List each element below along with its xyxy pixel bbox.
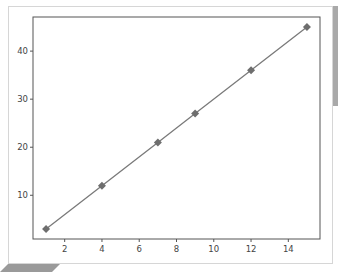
y-tick-label: 40 [17, 46, 28, 56]
x-tick-label: 8 [174, 244, 179, 254]
y-tick-label: 10 [17, 190, 28, 200]
x-tick-label: 12 [246, 244, 257, 254]
x-tick-label: 14 [283, 244, 294, 254]
y-axis-ticks: 10203040 [17, 46, 33, 200]
x-tick-label: 10 [208, 244, 219, 254]
y-tick-label: 20 [17, 142, 28, 152]
y-tick-label: 30 [17, 94, 28, 104]
x-axis-ticks: 2468101214 [62, 239, 294, 254]
x-tick-label: 6 [137, 244, 142, 254]
line-chart: 10203040 2468101214 [0, 0, 338, 272]
x-tick-label: 4 [99, 244, 104, 254]
x-tick-label: 2 [62, 244, 67, 254]
